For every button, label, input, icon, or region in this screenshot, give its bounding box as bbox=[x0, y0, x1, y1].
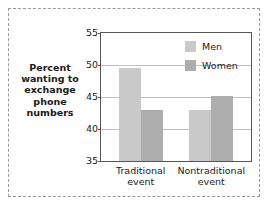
legend-label: Men bbox=[202, 41, 222, 52]
bar-women-traditional-event bbox=[141, 110, 163, 161]
y-axis-tick-label: 45 bbox=[72, 92, 98, 102]
chart-legend: MenWomen bbox=[185, 38, 245, 76]
x-axis-category-labels: TraditionaleventNontraditionalevent bbox=[100, 165, 252, 195]
chart-figure: Percentwanting toexchangephonenumbers 35… bbox=[0, 0, 270, 209]
plot-area: MenWomen bbox=[100, 32, 252, 162]
legend-item-women: Women bbox=[185, 57, 245, 73]
legend-item-men: Men bbox=[185, 38, 245, 54]
y-axis-tick-label: 40 bbox=[72, 124, 98, 134]
bar-women-nontraditional-event bbox=[211, 96, 233, 161]
y-axis-tick-label: 50 bbox=[72, 60, 98, 70]
bar-men-nontraditional-event bbox=[189, 110, 211, 161]
legend-swatch-icon bbox=[185, 41, 196, 52]
y-axis-tick-label: 35 bbox=[72, 156, 98, 166]
y-axis-tick-label: 55 bbox=[72, 28, 98, 38]
bar-men-traditional-event bbox=[119, 68, 141, 161]
legend-swatch-icon bbox=[185, 60, 196, 71]
x-axis-label-nontraditional-event: Nontraditionalevent bbox=[168, 165, 254, 187]
x-axis-label-line: event bbox=[168, 176, 254, 187]
legend-label: Women bbox=[202, 60, 238, 71]
x-axis-label-line: Nontraditional bbox=[168, 165, 254, 176]
y-axis-tick-labels: 3540455055 bbox=[70, 32, 98, 162]
